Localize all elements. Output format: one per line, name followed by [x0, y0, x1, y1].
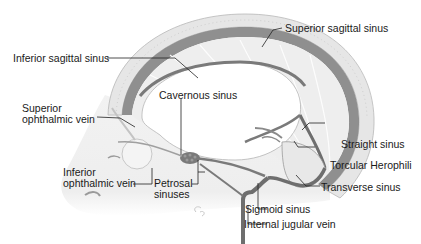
label-torcular-herophili: Torcular Herophili	[330, 160, 412, 172]
label-sigmoid-sinus: Sigmoid sinus	[245, 204, 310, 216]
label-petrosal-sinuses-line2: sinuses	[154, 189, 190, 201]
orbit	[122, 139, 152, 169]
label-straight-sinus: Straight sinus	[341, 139, 405, 151]
label-superior-sagittal-sinus: Superior sagittal sinus	[285, 23, 388, 35]
label-inferior-sagittal-sinus: Inferior sagittal sinus	[13, 53, 109, 65]
label-transverse-sinus: Transverse sinus	[321, 182, 401, 194]
label-cavernous-sinus: Cavernous sinus	[159, 90, 237, 102]
label-superior-ophthalmic-vein-line2: ophthalmic vein	[22, 114, 95, 126]
venous-sinus-diagram: Superior sagittal sinus Inferior sagitta…	[0, 0, 421, 244]
label-internal-jugular-vein: Internal jugular vein	[244, 219, 336, 231]
label-inferior-ophthalmic-vein-line2: ophthalmic vein	[63, 178, 136, 190]
